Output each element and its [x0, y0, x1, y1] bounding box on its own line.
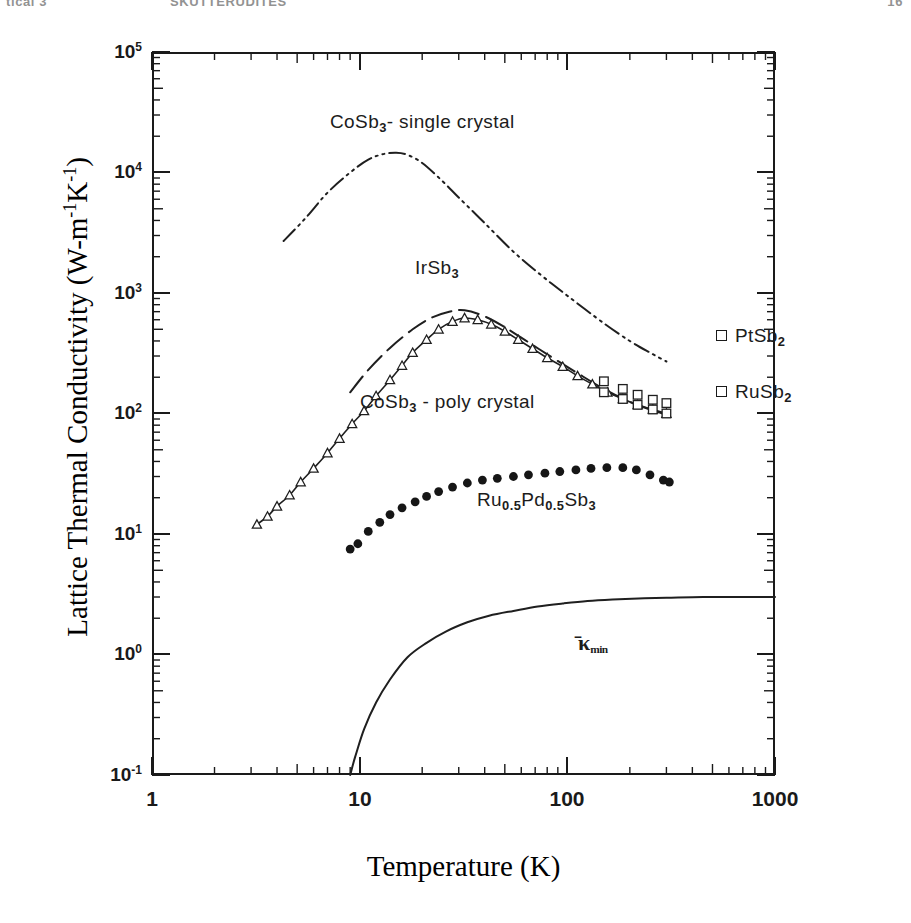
legend-marker-ptsb2 [716, 330, 727, 341]
annotation-irsb3: IrSb3 [415, 258, 459, 281]
annotation-kappa-min: ̄κmin [578, 632, 608, 656]
annotation-rusb2: RuSb2 [735, 382, 792, 405]
x-tick-label: 1000 [715, 788, 835, 809]
annotation-ru-pd-sb: Ru0.5Pd0.5Sb3 [477, 490, 596, 513]
annotation-cosb3-single-crystal: CoSb3- single crystal [330, 112, 515, 135]
y-tick-label: 10-1 [52, 764, 142, 784]
annotation-ptsb2: PtSb2 [735, 326, 785, 349]
y-tick-label: 105 [52, 41, 142, 61]
x-tick-label: 1 [92, 788, 212, 809]
legend-marker-rusb2 [716, 386, 727, 397]
x-tick-label: 100 [507, 788, 627, 809]
annotation-cosb3-poly-crystal: CoSb3 - poly crystal [360, 392, 535, 415]
y-axis-label: Lattice Thermal Conductivity (W-m-1K-1) [60, 67, 94, 727]
figure-thermal-conductivity: 105 104 103 102 101 100 10-1 1 10 100 10… [0, 0, 911, 923]
x-axis-label: Temperature (K) [152, 850, 775, 883]
x-tick-label: 10 [300, 788, 420, 809]
